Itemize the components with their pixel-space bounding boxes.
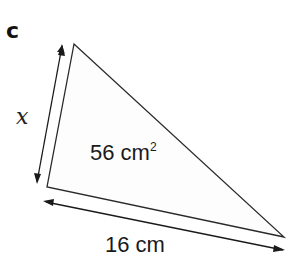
left-arrow-head-top [58,44,65,56]
base-arrow-head-right [273,245,285,252]
area-label: 56 cm2 [90,140,157,165]
side-variable-label: x [16,104,29,129]
part-label: c [6,18,19,43]
triangle-shape [47,44,284,237]
triangle-diagram: c x 56 cm2 16 cm [0,0,292,267]
left-arrow-head-bottom [34,173,41,184]
base-length-label: 16 cm [105,232,165,257]
base-arrow-head-left [43,199,54,206]
